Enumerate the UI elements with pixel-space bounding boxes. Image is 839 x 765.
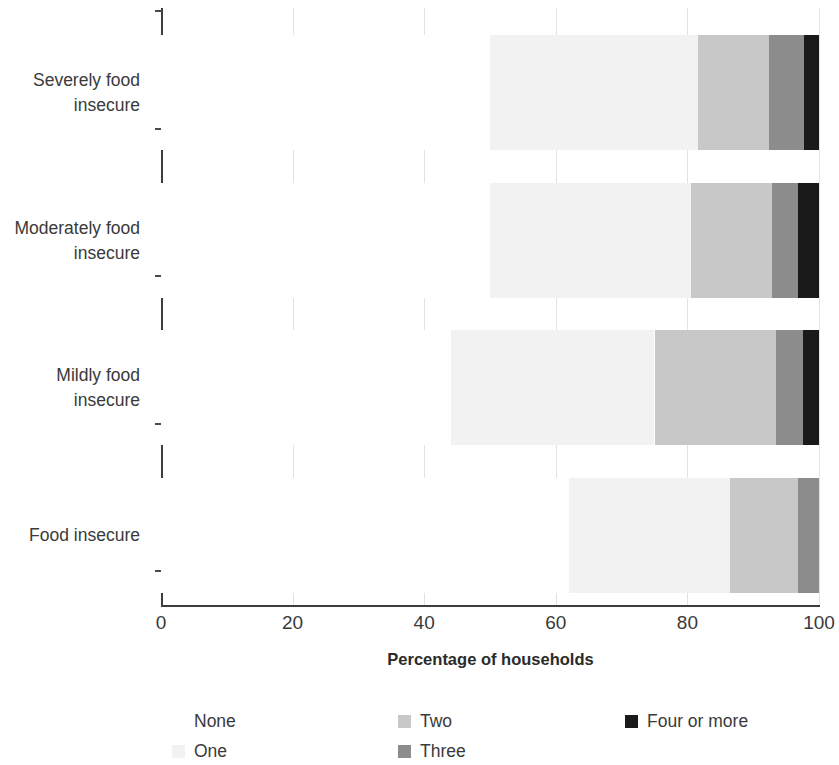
legend-label: One (194, 741, 227, 762)
bar-segment (161, 183, 490, 298)
chart-legend: NoneOneTwoThreeFour or more (0, 706, 829, 764)
x-axis-tick-label: 40 (394, 612, 454, 634)
legend-label: None (194, 711, 236, 732)
bar-segment (730, 478, 798, 593)
legend-label: Two (420, 711, 452, 732)
x-axis-tick-label: 0 (131, 612, 191, 634)
bar-segment (490, 183, 691, 298)
y-axis-category-label: Severely foodinsecure (0, 68, 151, 118)
legend-label: Four or more (647, 711, 748, 732)
category-label-line: Moderately food (0, 216, 151, 241)
legend-item[interactable]: None (172, 708, 236, 734)
bar-row (161, 183, 819, 298)
legend-swatch-icon (172, 715, 185, 728)
category-label-line: Severely food (0, 68, 151, 93)
bar-segment (798, 183, 819, 298)
y-axis-category-label: Food insecure (0, 523, 151, 548)
bar-segment (569, 478, 730, 593)
y-axis-tick (155, 10, 162, 12)
legend-label: Three (420, 741, 466, 762)
bar-segment (803, 330, 819, 445)
bar-row (161, 330, 819, 445)
chart-title: Number of coping strategies used by hous… (8, 0, 821, 6)
bar-segment (698, 35, 769, 150)
x-axis-tick-label: 100 (789, 612, 839, 634)
bar-row (161, 478, 819, 593)
bar-segment (691, 183, 772, 298)
bar-segment (772, 183, 798, 298)
bar-segment (776, 330, 802, 445)
legend-item[interactable]: Two (398, 708, 452, 734)
category-label-line: insecure (0, 388, 151, 413)
bar-segment (655, 330, 777, 445)
category-label-line: Food insecure (0, 523, 151, 548)
legend-swatch-icon (625, 715, 638, 728)
x-axis-line (161, 605, 820, 607)
x-axis-tick-label: 80 (657, 612, 717, 634)
y-axis-category-label: Mildly foodinsecure (0, 363, 151, 413)
bar-segment (161, 478, 569, 593)
category-label-line: insecure (0, 241, 151, 266)
bar-segment (451, 330, 655, 445)
legend-swatch-icon (398, 715, 411, 728)
x-axis-title: Percentage of households (161, 650, 820, 669)
category-label-line: insecure (0, 93, 151, 118)
legend-swatch-icon (398, 745, 411, 758)
y-axis-category-label: Moderately foodinsecure (0, 216, 151, 266)
x-axis-tick-label: 60 (526, 612, 586, 634)
legend-item[interactable]: Four or more (625, 708, 748, 734)
x-axis-tick-label: 20 (263, 612, 323, 634)
bar-row (161, 35, 819, 150)
category-label-line: Mildly food (0, 363, 151, 388)
bar-segment (798, 478, 819, 593)
legend-item[interactable]: One (172, 738, 227, 764)
bar-segment (804, 35, 819, 150)
legend-item[interactable]: Three (398, 738, 466, 764)
bar-segment (161, 35, 490, 150)
legend-swatch-icon (172, 745, 185, 758)
bar-segment (490, 35, 698, 150)
bar-segment (161, 330, 451, 445)
bar-segment (769, 35, 804, 150)
gridline (819, 8, 820, 605)
